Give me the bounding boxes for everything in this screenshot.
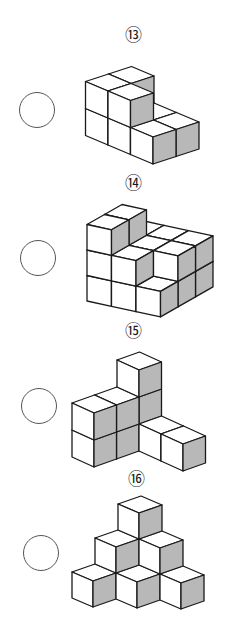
cube-top-face bbox=[72, 395, 117, 413]
cube-white-face bbox=[109, 74, 132, 111]
problem-number-label: ⑬ bbox=[123, 25, 143, 45]
cube-shaded-face bbox=[171, 256, 189, 292]
cube-shaded-face bbox=[137, 574, 160, 608]
cube-top-face bbox=[160, 566, 204, 583]
cube-white-face bbox=[136, 286, 161, 317]
cube-shaded-face bbox=[196, 236, 214, 272]
cube-top-face bbox=[117, 379, 162, 397]
cube-top-face bbox=[122, 220, 164, 235]
cube-top-face bbox=[147, 251, 189, 266]
cube-top-face bbox=[72, 422, 117, 440]
cube-top-face bbox=[131, 120, 177, 137]
cube-shaded-face bbox=[136, 251, 154, 287]
cube-shaded-face bbox=[136, 276, 154, 312]
cube-top-face bbox=[105, 205, 147, 220]
cube-shaded-face bbox=[181, 575, 204, 609]
cube-top-face bbox=[139, 531, 183, 548]
answer-circle[interactable] bbox=[21, 388, 57, 424]
cube-shaded-face bbox=[129, 235, 147, 270]
cube-shaded-face bbox=[112, 245, 130, 280]
cube-white-face bbox=[95, 422, 117, 459]
cube-white-face bbox=[87, 250, 112, 281]
cube-shaded-face bbox=[131, 120, 154, 155]
cube-white-face bbox=[95, 395, 117, 432]
cube-shaded-face bbox=[161, 281, 179, 317]
cube-top-face bbox=[86, 74, 132, 91]
cube-white-face bbox=[86, 82, 109, 119]
cube-top-face bbox=[154, 113, 200, 130]
cube-white-face bbox=[129, 271, 154, 302]
cube-white-face bbox=[95, 538, 116, 573]
cube-shaded-face bbox=[117, 424, 140, 459]
cube-top-face bbox=[129, 261, 171, 276]
cube-shaded-face bbox=[196, 261, 214, 297]
cube-shaded-face bbox=[139, 416, 162, 451]
cube-shaded-face bbox=[112, 220, 130, 256]
cube-white-face bbox=[129, 245, 154, 276]
cube-shaded-face bbox=[154, 266, 172, 302]
cube-shaded-face bbox=[183, 436, 206, 471]
cube-shaded-face bbox=[93, 573, 116, 607]
answer-circle[interactable] bbox=[20, 240, 56, 276]
worksheet: ⑬ ⑭ ⑮ ⑯ bbox=[0, 0, 227, 638]
cube-white-face bbox=[147, 235, 172, 266]
answer-circle[interactable] bbox=[23, 535, 59, 571]
cube-shaded-face bbox=[139, 389, 162, 424]
cube-white-face bbox=[105, 266, 130, 297]
cube-top-face bbox=[116, 565, 160, 582]
cube-white-face bbox=[171, 266, 196, 297]
cube-top-face bbox=[109, 94, 155, 111]
cube-top-face bbox=[117, 406, 162, 424]
cube-shaded-face bbox=[153, 130, 176, 165]
cube-white-face bbox=[160, 574, 181, 609]
cube-top-face bbox=[87, 215, 129, 230]
cube-top-face bbox=[112, 271, 154, 286]
cube-white-face bbox=[72, 430, 94, 467]
cube-shaded-face bbox=[178, 271, 196, 307]
cube-white-face bbox=[154, 251, 179, 282]
cube-white-face bbox=[122, 230, 147, 261]
cube-top-face bbox=[86, 101, 132, 118]
cube-white-face bbox=[112, 281, 137, 312]
cube-white-face bbox=[116, 573, 137, 608]
cube-top-face bbox=[72, 564, 116, 581]
cube-white-face bbox=[105, 215, 130, 246]
cube-white-face bbox=[117, 414, 139, 451]
cube-top-face bbox=[136, 276, 178, 291]
cube-top-face bbox=[171, 256, 213, 271]
cube-top-face bbox=[171, 231, 213, 246]
cube-white-face bbox=[108, 118, 131, 155]
answer-circle[interactable] bbox=[19, 92, 55, 128]
problem-number-label: ⑯ bbox=[126, 469, 146, 489]
cube-shaded-face bbox=[147, 251, 165, 286]
cube-white-face bbox=[131, 111, 154, 148]
cube-shaded-face bbox=[131, 93, 154, 128]
cube-top-face bbox=[95, 387, 140, 405]
cube-top-face bbox=[105, 256, 147, 271]
cube-white-face bbox=[147, 261, 172, 292]
cube-shaded-face bbox=[131, 103, 154, 138]
cube-shaded-face bbox=[129, 261, 147, 297]
cube-white-face bbox=[105, 240, 130, 271]
cube-top-face bbox=[117, 352, 162, 370]
cube-top-face bbox=[139, 416, 184, 434]
cube-shaded-face bbox=[178, 246, 196, 282]
problem-number-label: ⑮ bbox=[123, 321, 143, 341]
cube-white-face bbox=[117, 360, 139, 397]
cube-top-face bbox=[108, 111, 154, 128]
cube-top-face bbox=[131, 103, 177, 120]
cube-shaded-face bbox=[117, 397, 140, 432]
cube-shaded-face bbox=[139, 362, 162, 397]
cube-top-face bbox=[147, 225, 189, 240]
cube-shaded-face bbox=[112, 271, 130, 307]
cube-top-face bbox=[161, 426, 206, 444]
cube-shaded-face bbox=[160, 540, 183, 574]
cube-shaded-face bbox=[154, 241, 172, 277]
cube-white-face bbox=[87, 276, 112, 307]
cube-white-face bbox=[117, 387, 139, 424]
cube-shaded-face bbox=[147, 225, 165, 260]
problem-number-label: ⑭ bbox=[123, 173, 143, 193]
cube-top-face bbox=[109, 67, 155, 84]
cube-white-face bbox=[154, 276, 179, 307]
cube-shaded-face bbox=[116, 539, 139, 573]
